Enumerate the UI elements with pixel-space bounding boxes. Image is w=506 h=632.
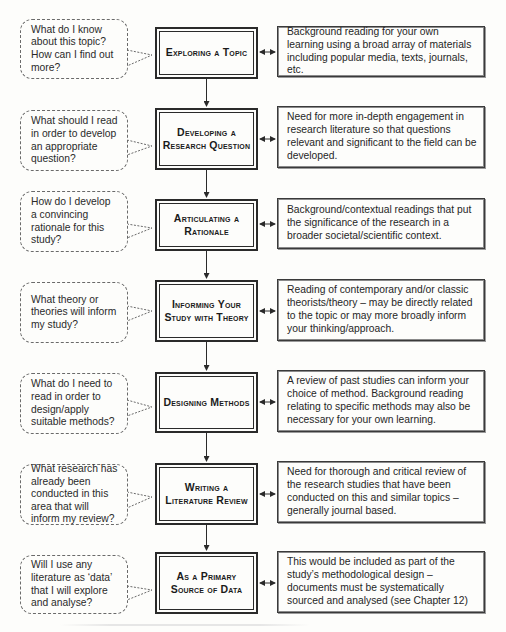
question-bubble-6: What research has already been conducted…: [20, 464, 128, 525]
stage-title: Designing Methods: [159, 396, 253, 410]
question-bubble-2: What should I read in order to develop a…: [20, 110, 128, 171]
question-bubble-1: What do I know about this topic? How can…: [20, 19, 128, 79]
description-text: Need for more in-depth engagement in res…: [287, 111, 478, 162]
description-text: Reading of contemporary and/or classic t…: [287, 284, 478, 335]
question-bubble-4: What theory or theories will inform my s…: [20, 282, 128, 343]
description-box-7: This would be included as part of the st…: [277, 551, 485, 613]
description-box-2: Need for more in-depth engagement in res…: [277, 106, 485, 168]
description-box-3: Background/contextual readings that put …: [277, 198, 485, 249]
stage-title: As a Primary Source of Data: [157, 570, 256, 597]
description-box-6: Need for thorough and critical review of…: [277, 461, 485, 523]
stage-title: Exploring a Topic: [162, 46, 251, 60]
question-text: What do I know about this topic? How can…: [31, 24, 119, 74]
description-text: Background/contextual readings that put …: [287, 204, 478, 242]
question-text: What should I read in order to develop a…: [31, 115, 119, 165]
question-bubble-7: Will I use any literature as ‘data’ that…: [20, 555, 128, 614]
description-box-1: Background reading for your own learning…: [277, 26, 485, 77]
stage-box-designing-methods: Designing Methods: [155, 372, 258, 433]
stage-box-exploring-topic: Exploring a Topic: [155, 27, 258, 79]
faint-footer-mark: [60, 624, 310, 626]
description-box-4: Reading of contemporary and/or classic t…: [277, 279, 485, 341]
description-text: A review of past studies can inform your…: [287, 375, 478, 426]
question-bubble-5: What do I need to read in order to desig…: [20, 373, 128, 434]
stage-box-informing-theory: Informing Your Study with Theory: [155, 280, 258, 342]
literature-flow-diagram: What do I know about this topic? How can…: [0, 0, 506, 632]
stage-title: Informing Your Study with Theory: [157, 298, 256, 325]
question-bubble-3: How do I develop a convincing rationale …: [20, 191, 128, 252]
description-text: Background reading for your own learning…: [287, 26, 478, 77]
description-box-5: A review of past studies can inform your…: [277, 370, 485, 432]
question-text: What do I need to read in order to desig…: [31, 378, 119, 428]
question-text: How do I develop a convincing rationale …: [31, 196, 119, 246]
question-text: What theory or theories will inform my s…: [31, 294, 119, 332]
stage-box-primary-source-data: As a Primary Source of Data: [155, 552, 258, 614]
stage-box-literature-review: Writing a Literature Review: [155, 463, 258, 525]
description-text: Need for thorough and critical review of…: [287, 466, 478, 517]
description-text: This would be included as part of the st…: [287, 556, 478, 607]
stage-title: Articulating a Rationale: [157, 212, 256, 239]
stage-title: Developing a Research Question: [157, 126, 256, 153]
question-text: What research has already been conducted…: [31, 463, 119, 526]
stage-box-developing-question: Developing a Research Question: [155, 108, 258, 170]
stage-box-articulating-rationale: Articulating a Rationale: [155, 199, 258, 251]
stage-title: Writing a Literature Review: [157, 481, 256, 508]
question-text: Will I use any literature as ‘data’ that…: [31, 559, 119, 609]
